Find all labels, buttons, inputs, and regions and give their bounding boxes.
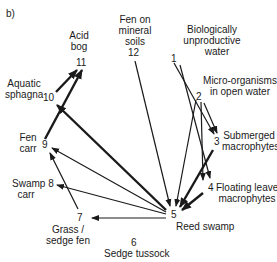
- node-3-number: 3: [214, 136, 220, 147]
- node-4-label-line: macrophytes: [216, 193, 277, 204]
- node-8-label-line: Swamp 8: [12, 178, 52, 189]
- node-2-number: 2: [196, 91, 202, 102]
- edge-10-11: [56, 70, 77, 92]
- node-6-number: 6: [131, 237, 137, 248]
- node-7-label-line: sedge fen: [40, 235, 96, 246]
- node-1-number: 1: [171, 53, 177, 64]
- node-8-number: 8: [48, 178, 54, 189]
- node-7-label-line: Grass /: [40, 224, 96, 235]
- node-8-label-word: Swamp: [12, 178, 45, 189]
- node-6-label: Sedge tussock: [104, 248, 170, 259]
- node-1-label: Biologically unproductive water: [172, 24, 252, 57]
- edge-2-5: [176, 100, 196, 206]
- node-11-label-line: Acid: [65, 30, 93, 41]
- node-11-label: Acid bog: [65, 30, 93, 52]
- node-12-label-line: mineral: [112, 25, 158, 36]
- node-7-number: 7: [77, 212, 83, 223]
- edge-1-3: [174, 63, 214, 134]
- node-12-label-line: soils: [112, 36, 158, 47]
- node-4-number: 4: [208, 182, 214, 193]
- node-12-label-line: Fen on: [112, 14, 158, 25]
- node-10-label: Aquatic sphagna: [5, 78, 43, 100]
- node-5-label-line: Reed swamp: [176, 221, 234, 232]
- node-9-label-line: carr: [16, 143, 40, 154]
- node-12-label: Fen on mineral soils: [112, 14, 158, 47]
- node-4-label-line: Floating leaved: [216, 182, 277, 193]
- node-2-label: Micro-organisms in open water: [200, 75, 277, 97]
- node-10-number: 10: [43, 92, 54, 103]
- node-10-label-line: Aquatic: [5, 78, 43, 89]
- node-11-number: 11: [76, 57, 86, 68]
- edge-5-9: [52, 148, 166, 212]
- node-4-label: Floating leaved macrophytes: [216, 182, 277, 204]
- node-3-label-line: Submerged: [222, 130, 276, 141]
- node-12-number: 12: [128, 47, 139, 58]
- node-8-label-line: carr: [12, 189, 52, 200]
- node-3-label-line: macrophytes: [222, 141, 276, 152]
- node-1-label-line: unproductive: [172, 35, 252, 46]
- node-8-label: Swamp 8 carr: [12, 178, 52, 200]
- node-1-label-line: Biologically: [172, 24, 252, 35]
- node-10-label-line: sphagna: [5, 89, 43, 100]
- edge-9-11: [45, 70, 82, 139]
- node-11-label-line: bog: [65, 41, 93, 52]
- edge-4-5: [182, 193, 203, 210]
- edge-7-9: [50, 153, 78, 209]
- node-5-number: 5: [171, 209, 177, 220]
- node-9-number: 9: [42, 139, 48, 150]
- node-2-label-line: Micro-organisms: [200, 75, 277, 86]
- node-3-label: Submerged macrophytes: [222, 130, 276, 152]
- node-7-label: Grass / sedge fen: [40, 224, 96, 246]
- node-9-label-line: Fen: [16, 132, 40, 143]
- node-9-label: Fen carr: [16, 132, 40, 154]
- node-5-label: Reed swamp: [176, 221, 234, 232]
- node-6-label-line: Sedge tussock: [104, 248, 170, 259]
- node-1-label-line: water: [172, 46, 252, 57]
- node-2-label-line: in open water: [200, 86, 277, 97]
